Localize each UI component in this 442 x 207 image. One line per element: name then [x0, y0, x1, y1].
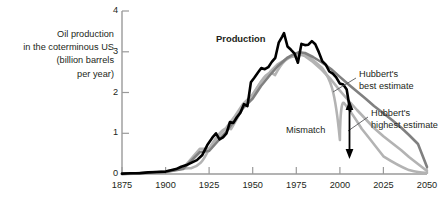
annotation-best-line-1: Hubbert's	[359, 68, 414, 80]
y-tick-label-2: 2	[104, 87, 118, 97]
annotation-hubberts-best-estimate: Hubbert's best estimate	[359, 68, 414, 93]
y-axis-title-line-4: per year)	[6, 68, 114, 81]
x-tick-label-1975: 1975	[279, 180, 313, 190]
y-tick-label-1: 1	[104, 127, 118, 137]
annotation-highest-line-1: Hubbert's	[371, 107, 438, 119]
y-axis-title-line-2: in the coterminous US	[6, 41, 114, 54]
y-tick-label-4: 4	[104, 5, 118, 15]
annotation-best-line-2: best estimate	[359, 80, 414, 92]
annotation-mismatch: Mismatch	[286, 124, 325, 136]
x-tick-label-1875: 1875	[105, 180, 139, 190]
annotation-hubberts-highest-estimate: Hubbert's highest estimate	[371, 107, 438, 132]
x-tick-label-2050: 2050	[410, 180, 442, 190]
y-tick-label-3: 3	[104, 46, 118, 56]
annotation-production: Production	[216, 33, 265, 45]
x-tick-label-1925: 1925	[192, 180, 226, 190]
y-axis-title: Oil production in the coterminous US (bi…	[6, 28, 114, 81]
y-tick-label-0: 0	[104, 168, 118, 178]
x-tick-label-2025: 2025	[366, 180, 400, 190]
x-tick-label-2000: 2000	[323, 180, 357, 190]
x-tick-label-1900: 1900	[149, 180, 183, 190]
annotation-highest-line-2: highest estimate	[371, 119, 438, 131]
y-axis-title-line-3: (billion barrels	[6, 54, 114, 67]
y-axis-title-line-1: Oil production	[6, 28, 114, 41]
x-tick-label-1950: 1950	[236, 180, 270, 190]
